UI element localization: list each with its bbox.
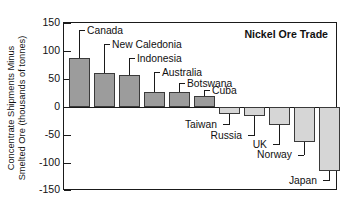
callout-new-caledonia: New Caledonia (112, 39, 182, 50)
callout-indonesia: Indonesia (137, 53, 182, 64)
y-tick-label-0: 0 (54, 100, 60, 112)
y-tick-mark-minus-150 (64, 190, 71, 191)
y-axis-title-area: Concentrate Shipments Minus Smelted Ore … (0, 0, 34, 216)
chart-title: Nickel Ore Trade (244, 28, 328, 40)
y-tick-label-minus-100: -100 (39, 156, 60, 168)
y-axis-title: Concentrate Shipments Minus Smelted Ore … (6, 36, 28, 181)
callout-norway: Norway (257, 149, 292, 160)
bar-uk (269, 107, 290, 125)
callout-japan: Japan (289, 175, 317, 186)
bar-indonesia (119, 75, 140, 108)
bar-new-caledonia (94, 73, 115, 107)
bar-japan (319, 107, 340, 171)
y-axis-title-line-2: Smelted Ore (thousands of tonnes) (17, 36, 28, 181)
callout-cuba: Cuba (212, 85, 237, 96)
y-tick-label-minus-50: -50 (45, 128, 60, 140)
y-tick-label-100: 100 (42, 44, 60, 56)
plot-area: 150 100 50 0 -50 -100 -150 (63, 22, 337, 190)
callout-russia: Russia (211, 130, 242, 141)
y-axis-title-line-1: Concentrate Shipments Minus (6, 36, 17, 181)
callout-taiwan: Taiwan (185, 119, 217, 130)
nickel-ore-trade-chart: Concentrate Shipments Minus Smelted Ore … (0, 0, 352, 216)
callout-canada: Canada (87, 25, 123, 36)
bar-cuba (194, 96, 215, 107)
callout-australia: Australia (162, 67, 202, 78)
bar-botswana (169, 92, 190, 107)
bar-canada (69, 58, 90, 107)
bar-taiwan (219, 107, 240, 114)
y-tick-label-150: 150 (42, 16, 60, 28)
bar-australia (144, 92, 165, 107)
bar-russia (244, 107, 265, 116)
y-tick-label-minus-150: -150 (39, 183, 60, 195)
bar-norway (294, 107, 315, 142)
y-tick-label-50: 50 (48, 72, 60, 84)
